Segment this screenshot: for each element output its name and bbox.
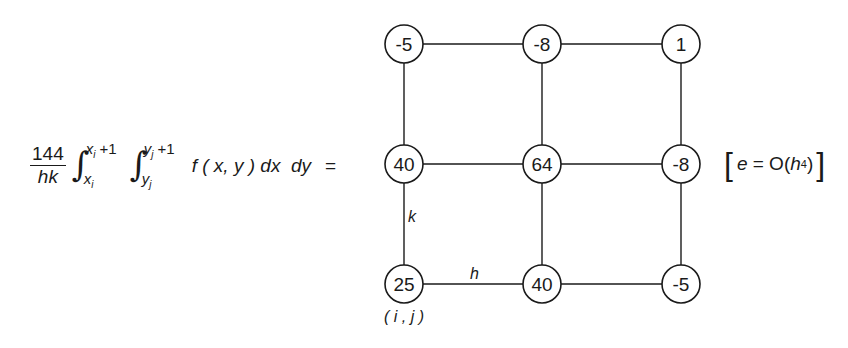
k-spacing-label: k: [408, 208, 417, 225]
stencil-grid: -5 -8 1 40 64 -8 25 40 -5 k h ( i , j ): [0, 0, 848, 348]
left-bracket: [: [724, 150, 733, 178]
node-value: 1: [676, 34, 687, 55]
error-close-paren: ): [807, 153, 813, 175]
error-order: = O(: [747, 153, 790, 175]
error-symbol: e: [737, 153, 748, 175]
node-value: -8: [673, 154, 690, 175]
error-h: h: [790, 153, 801, 175]
node-value: -5: [673, 274, 690, 295]
node-value: -5: [396, 34, 413, 55]
node-value: -8: [534, 34, 551, 55]
right-bracket: ]: [816, 150, 825, 178]
node-value: 25: [393, 274, 414, 295]
node-value: 40: [393, 154, 414, 175]
error-term: [ e = O( h 4 ) ]: [724, 150, 825, 178]
h-spacing-label: h: [470, 265, 479, 282]
node-value: 40: [531, 274, 552, 295]
origin-label: ( i , j ): [384, 308, 424, 325]
node-value: 64: [531, 154, 553, 175]
